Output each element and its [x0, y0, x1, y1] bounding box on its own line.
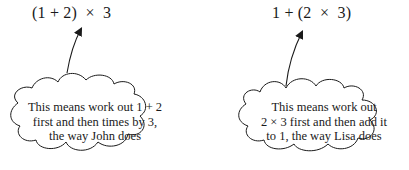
explanation-line: This means work out 1 + 2 [20, 100, 170, 115]
arrow-left-icon [67, 29, 81, 73]
diagram-artwork [0, 0, 409, 170]
explanation-line: This means work out [248, 100, 400, 115]
arrow-right-icon [286, 32, 302, 86]
explanation-left: This means work out 1 + 2 first and then… [20, 100, 170, 144]
explanation-line: to 1, the way Lisa does [248, 129, 400, 144]
explanation-line: 2 × 3 first and then add it [248, 115, 400, 130]
explanation-line: the way John does [20, 129, 170, 144]
explanation-right: This means work out 2 × 3 first and then… [248, 100, 400, 144]
explanation-line: first and then times by 3, [20, 115, 170, 130]
